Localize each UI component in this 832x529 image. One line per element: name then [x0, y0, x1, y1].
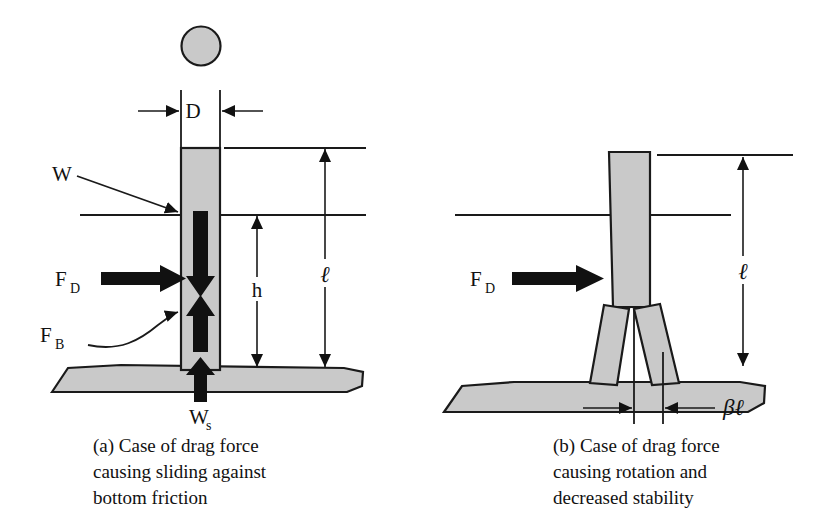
label-drag-force-sub-a: D [70, 281, 80, 296]
caption-b-line-3: decreased stability [553, 487, 694, 508]
pile-cross-section-circle [182, 27, 221, 66]
splayed-leg-left [590, 305, 629, 385]
label-diameter: D [185, 99, 200, 123]
weight-leader-line [77, 176, 178, 212]
vertical-column-b [609, 152, 650, 307]
label-length-b: ℓ [738, 259, 748, 284]
figure-root: D W F D F B W [0, 0, 832, 529]
label-drag-force-sub-b: D [485, 281, 495, 296]
caption-b-line-1: (b) Case of drag force [553, 435, 720, 457]
caption-a-line-3: bottom friction [93, 487, 208, 508]
caption-a-line-1: (a) Case of drag force [93, 435, 259, 457]
label-drag-force-a: F [55, 267, 67, 291]
label-weight: W [52, 162, 72, 186]
splayed-leg-right [634, 304, 679, 385]
caption-a-line-2: causing sliding against [93, 461, 267, 482]
panel-b: F D ℓ βℓ (b) Case of drag force causing … [444, 152, 793, 508]
label-beta-ell: βℓ [722, 395, 744, 420]
caption-b-line-2: causing rotation and [553, 461, 708, 482]
label-buoyancy-force: F [40, 323, 52, 347]
label-height-h: h [252, 278, 263, 302]
buoyancy-leader-line [88, 312, 178, 347]
panel-a: D W F D F B W [40, 27, 366, 509]
label-drag-force-b: F [470, 267, 482, 291]
drag-force-arrow-b [512, 265, 604, 292]
technical-diagram-svg: D W F D F B W [0, 0, 832, 529]
label-buoyancy-force-sub: B [55, 337, 64, 352]
drag-force-arrow-a [101, 265, 186, 292]
label-length-a: ℓ [320, 262, 330, 287]
label-soil-reaction-sub: s [206, 418, 211, 433]
